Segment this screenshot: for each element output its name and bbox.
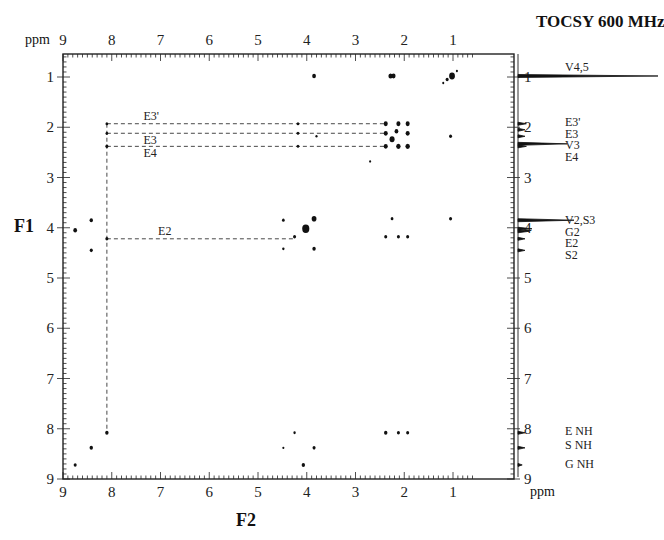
cross-peak [282,219,285,222]
cross-peak [282,447,284,449]
projection-peak [518,74,658,77]
y-tick-label-right: 6 [524,320,532,336]
cross-peak [396,121,400,126]
y-tick-label-left: 4 [47,220,55,236]
cross-peak [446,78,449,82]
y-tick-label-right: 7 [524,371,532,387]
y-tick-label-left: 3 [47,170,55,186]
cross-peak [312,74,316,78]
y-tick-label-left: 1 [47,69,55,85]
projection-label: S NH [565,438,592,452]
projection-peak [518,142,567,145]
projection-label: G NH [565,457,594,471]
x-tick-label-bottom: 5 [254,484,262,500]
cross-peak [384,131,388,136]
y-tick-label-left: 7 [47,371,55,387]
cross-peak [105,237,108,241]
cross-peak [73,228,77,232]
x-tick-label-bottom: 4 [303,484,311,500]
x-tick-label-bottom: 3 [352,484,360,500]
cross-peak [390,136,395,142]
x-tick-label-bottom: 7 [157,484,165,500]
x-tick-label-top: 1 [449,32,457,48]
cross-peak [391,217,394,220]
projection-peak [518,237,525,240]
y-tick-label-left: 5 [47,270,55,286]
cross-peak [406,121,410,126]
cross-peak [312,216,317,222]
projection-label: S2 [565,248,578,262]
cross-peak [384,235,387,239]
cross-peak [293,431,295,434]
cross-peak [406,235,409,239]
cross-peak [105,145,108,149]
x-tick-label-top: 5 [254,32,262,48]
cross-peak [74,463,77,467]
f2-axis-title: F2 [236,510,256,531]
x-tick-label-top: 4 [303,32,311,48]
cross-peak [406,431,409,435]
connectivity-label: E3' [143,109,159,123]
connectivity-label: E3 [143,133,156,147]
cross-peak [312,247,315,251]
y-tick-label-left: 9 [47,471,55,487]
cross-peak [449,134,452,138]
cross-peak [397,431,400,435]
x-tick-label-top: 8 [108,32,116,48]
cross-peak [369,160,371,162]
cross-peak [449,217,452,221]
y-tick-label-right: 3 [524,170,532,186]
plot-frame [63,54,514,479]
x-tick-label-top: 6 [206,32,214,48]
cross-peak [313,446,316,450]
cross-peak [456,70,458,72]
cross-peak [297,145,300,148]
cross-peak [297,132,300,135]
connectivity-label: E4 [143,146,156,160]
projection-peak [518,446,525,449]
cross-peak [293,235,296,239]
cross-peak [384,144,388,149]
x-tick-label-bottom: 2 [401,484,409,500]
y-tick-label-right: 2 [524,119,532,135]
f1-axis-title: F1 [14,216,34,237]
cross-peak [395,129,399,133]
figure-title: TOCSY 600 MHz [536,12,664,32]
cross-peak [106,122,109,125]
y-tick-label-left: 2 [47,119,55,135]
cross-peak [90,249,93,253]
cross-peak [405,144,409,149]
projection-peak [518,463,522,466]
x-tick-label-bottom: 8 [108,484,116,500]
cross-peak [106,132,109,135]
cross-peak [442,82,444,84]
x-tick-label-bottom: 1 [449,484,457,500]
y-tick-label-right: 5 [524,270,532,286]
cross-peak [384,121,388,126]
y-tick-label-left: 6 [47,320,55,336]
cross-peak [302,463,305,467]
cross-peak [406,131,410,136]
projection-label: V4,5 [565,60,589,74]
ppm-unit-bottom: ppm [530,484,555,500]
cross-peak [90,218,93,222]
projection-label: E4 [565,150,578,164]
y-tick-label-left: 8 [47,421,55,437]
cross-peak [302,225,309,233]
y-tick-label-right: 8 [524,421,532,437]
x-tick-label-top: 3 [352,32,360,48]
projection-label: E NH [565,424,593,438]
cross-peak [282,247,284,250]
connectivity-label: E2 [158,224,171,238]
cross-peak [391,74,395,79]
x-tick-label-top: 2 [401,32,409,48]
x-tick-label-top: 9 [59,32,67,48]
x-tick-label-bottom: 9 [59,484,67,500]
ppm-unit-top: ppm [25,32,50,48]
cross-peak [384,431,387,435]
cross-peak [449,73,455,80]
x-tick-label-top: 7 [157,32,165,48]
cross-peak [297,122,300,125]
